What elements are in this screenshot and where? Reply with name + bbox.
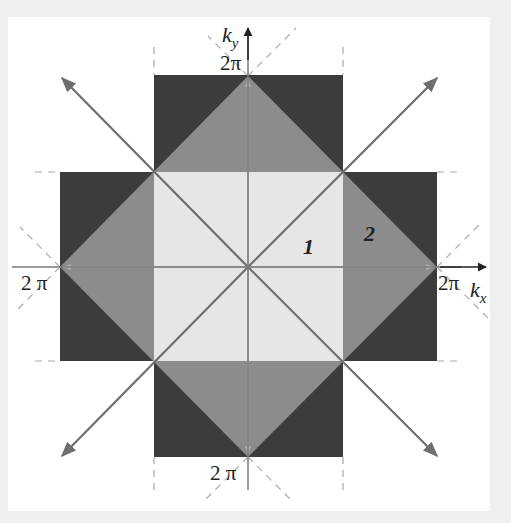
tick-label-bottom: 2 π	[210, 461, 237, 485]
kx-axis-label: kx	[470, 277, 487, 306]
tick-label-left: 2 π	[21, 271, 48, 295]
brillouin-zone-diagram: ky kx 2π 2 π 2 π 2π 1 2	[0, 0, 511, 523]
ky-axis-label: ky	[222, 22, 239, 51]
zone-1-label: 1	[303, 234, 314, 259]
tick-label-right: 2π	[438, 271, 460, 295]
zone-2-label: 2	[363, 221, 375, 246]
tick-label-top: 2π	[220, 51, 242, 75]
